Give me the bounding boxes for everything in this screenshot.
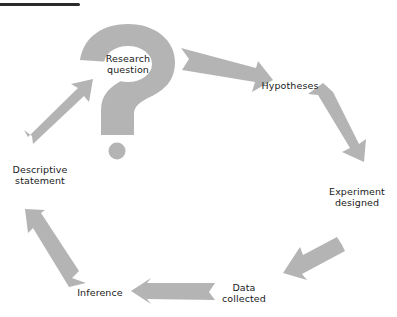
node-experiment-designed: Experiment designed [325,186,389,208]
node-hypotheses: Hypotheses [260,80,320,91]
node-research-question: Research question [104,53,152,75]
arrow-inference-to-descriptive [25,209,86,287]
node-label-line1: Data [218,282,270,293]
node-descriptive-statement: Descriptive statement [8,164,72,186]
research-cycle-diagram [0,0,397,317]
node-label-line2: statement [8,175,72,186]
node-label-line1: Inference [72,287,128,298]
arrow-hypotheses-to-experiment [308,83,366,162]
node-label-line1: Experiment [325,186,389,197]
node-label-line2: designed [325,197,389,208]
arrow-data-to-inference [131,278,215,304]
arrow-experiment-to-data [283,237,345,280]
node-label-line2: question [104,64,152,75]
question-mark-icon [80,24,175,160]
arrow-descriptive-to-research [24,79,93,144]
node-label-line1: Research [104,53,152,64]
node-label-line2: collected [218,293,270,304]
node-inference: Inference [72,287,128,298]
node-label-line1: Descriptive [8,164,72,175]
node-data-collected: Data collected [218,282,270,304]
node-label-line1: Hypotheses [260,80,320,91]
